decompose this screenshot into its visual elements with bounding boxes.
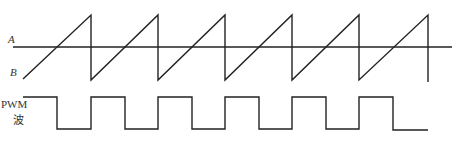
label-pwm-wave: 波 [13,114,24,126]
label-b: B [10,66,17,78]
pwm-wave [23,97,428,130]
sawtooth-wave-b [23,15,428,82]
label-a: A [7,33,15,45]
label-pwm: PWM [1,98,28,110]
pwm-comparison-diagram: A B PWM 波 [0,0,460,147]
